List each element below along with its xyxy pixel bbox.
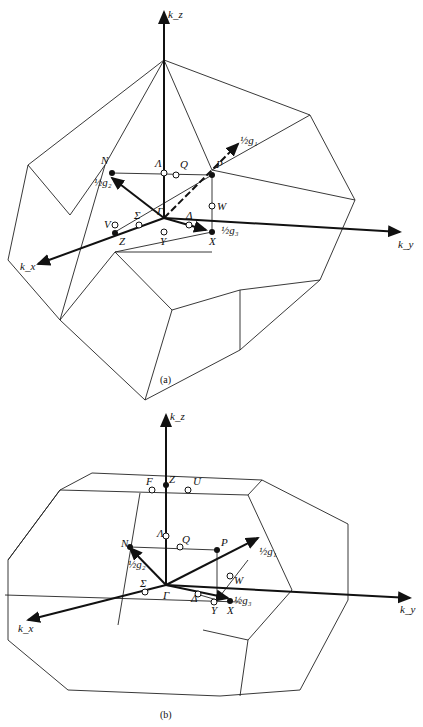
caption-b: (b) xyxy=(160,709,172,721)
axis-kx-label: k_x xyxy=(20,260,35,272)
vector-g2: ½g₂ xyxy=(94,176,112,188)
point-P: P xyxy=(220,536,228,548)
point-Q: Q xyxy=(182,533,190,545)
point-Delta: Δ xyxy=(185,209,192,221)
point-N: N xyxy=(100,154,109,166)
point-Delta: Δ xyxy=(190,592,197,604)
caption-a: (a) xyxy=(160,374,171,386)
vector-g3: ½g₃ xyxy=(234,594,252,606)
point-W: W xyxy=(217,200,227,212)
axis-ky-label: k_y xyxy=(400,603,415,615)
point-Gamma: Γ xyxy=(156,205,164,217)
brillouin-zone-diagrams: k_z k_x k_y N Λ Q P W V Σ Γ Δ Z Y X ½g₁ … xyxy=(0,0,423,727)
vector-g1: ½g₁ xyxy=(240,134,258,146)
axis-kz-label: k_z xyxy=(168,8,183,20)
vector-g2: ½g₂ xyxy=(128,558,146,570)
point-Y: Y xyxy=(211,604,219,616)
point-N: N xyxy=(120,537,129,549)
point-Sigma: Σ xyxy=(133,209,141,221)
figure-b: k_z k_x k_y F Z U N Λ Q P W Σ Γ Δ Y X ½g… xyxy=(5,410,415,721)
point-Lambda: Λ xyxy=(156,527,164,539)
point-U: U xyxy=(193,475,202,487)
point-F: F xyxy=(145,475,153,487)
vector-g3: ½g₃ xyxy=(221,224,239,236)
point-Gamma: Γ xyxy=(162,589,170,601)
axis-kz-label: k_z xyxy=(170,410,185,422)
point-Q: Q xyxy=(180,158,188,170)
point-Lambda: Λ xyxy=(154,157,162,169)
point-Z: Z xyxy=(169,473,176,485)
point-V: V xyxy=(104,218,112,230)
vector-g1: ½g₁ xyxy=(259,545,277,557)
axis-ky-label: k_y xyxy=(398,238,413,250)
axis-kx-label: k_x xyxy=(18,622,33,634)
point-P: P xyxy=(215,158,223,170)
point-Sigma: Σ xyxy=(139,577,147,589)
figure-a: k_z k_x k_y N Λ Q P W V Σ Γ Δ Z Y X ½g₁ … xyxy=(8,8,413,400)
point-W: W xyxy=(234,574,244,586)
point-X: X xyxy=(208,235,217,247)
point-Z: Z xyxy=(119,235,126,247)
